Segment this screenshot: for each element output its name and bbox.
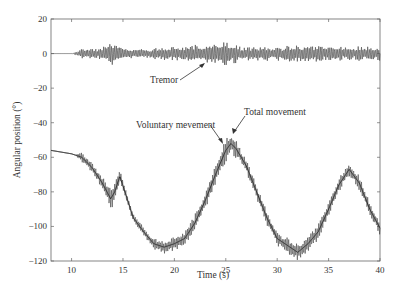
tick-label: 20 [170, 265, 180, 275]
annotation-total: Total movement [244, 107, 306, 117]
tick-label: 0 [43, 49, 48, 59]
tick-label: −20 [33, 83, 48, 93]
tick-label: 40 [376, 265, 386, 275]
annotation-tremor: Tremor [150, 75, 179, 85]
tick-label: 30 [273, 265, 283, 275]
annotation-voluntary: Voluntary mevement [136, 120, 216, 130]
tick-label: 20 [38, 14, 48, 24]
tremor-series-line [51, 43, 380, 65]
tick-label: −80 [33, 187, 48, 197]
tick-label: −100 [28, 221, 47, 231]
tick-label: 10 [67, 265, 77, 275]
tick-label: −60 [33, 152, 48, 162]
voluntary-arrowhead [218, 138, 223, 144]
x-axis-label: Time (s) [197, 270, 229, 281]
tick-label: 35 [324, 265, 334, 275]
tick-label: 15 [118, 265, 128, 275]
tick-label: −40 [33, 118, 48, 128]
tremor-arrowhead [199, 63, 205, 68]
total-movement-series-line [51, 138, 380, 260]
tremor-arrow [180, 64, 204, 80]
tick-label: −120 [28, 256, 47, 266]
voluntary-movement-series-line [51, 144, 380, 253]
y-axis-label: Angular position (°) [12, 102, 23, 179]
chart: 10152025303540200−20−40−60−80−100−120 Ti… [0, 0, 399, 296]
